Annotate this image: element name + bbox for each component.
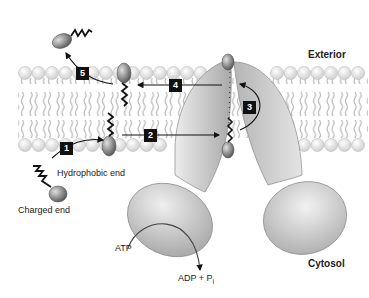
protein-bound-top <box>222 54 234 70</box>
released-molecule <box>50 30 92 51</box>
adp-text: ADP + P <box>178 273 213 283</box>
step-3-badge: 3 <box>243 101 256 114</box>
step-4-badge: 4 <box>169 79 182 92</box>
atp-label: ATP <box>115 243 132 253</box>
outer-lipid-heads <box>19 67 365 80</box>
adp-pi-label: ADP + Pi <box>178 273 214 285</box>
step-1-badge: 1 <box>60 142 73 155</box>
step-5-badge: 5 <box>76 67 89 80</box>
charged-end-label: Charged end <box>18 205 70 215</box>
pi-subscript: i <box>213 278 215 285</box>
exterior-label: Exterior <box>308 49 346 60</box>
step-2-badge: 2 <box>144 129 157 142</box>
nucleotide-binding-domain-right <box>255 172 355 263</box>
membrane-transport-diagram <box>0 0 369 298</box>
cytosol-label: Cytosol <box>308 258 345 269</box>
hydrophobic-end-label: Hydrophobic end <box>57 168 125 178</box>
